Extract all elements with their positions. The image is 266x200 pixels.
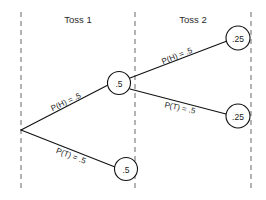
node-label-heads-heads: .25 [232,34,244,44]
probability-tree-diagram: Toss 1 Toss 2 .5 .5 .25 .25 P(H) = .5 P(… [0,0,266,200]
edge-label-group: P(H) = .5 P(T) = .5 P(H) = .5 P(T) = .5 [50,46,197,166]
node-label-tails-stage1: .5 [122,165,129,175]
node-label-heads-stage1: .5 [115,79,122,89]
edge-label-tails-stage2: P(T) = .5 [164,100,197,115]
node-label-heads-tails: .25 [232,112,244,122]
edge-label-tails-stage1: P(T) = .5 [55,146,88,166]
branch-line-tails-stage1 [21,130,115,167]
edge-label-heads-stage1: P(H) = .5 [50,91,83,113]
stage-title-toss1: Toss 1 [64,14,91,25]
edge-label-heads-stage2: P(H) = .5 [160,46,194,67]
tree-svg-canvas: Toss 1 Toss 2 .5 .5 .25 .25 P(H) = .5 P(… [0,0,266,200]
stage-title-toss2: Toss 2 [179,14,206,25]
